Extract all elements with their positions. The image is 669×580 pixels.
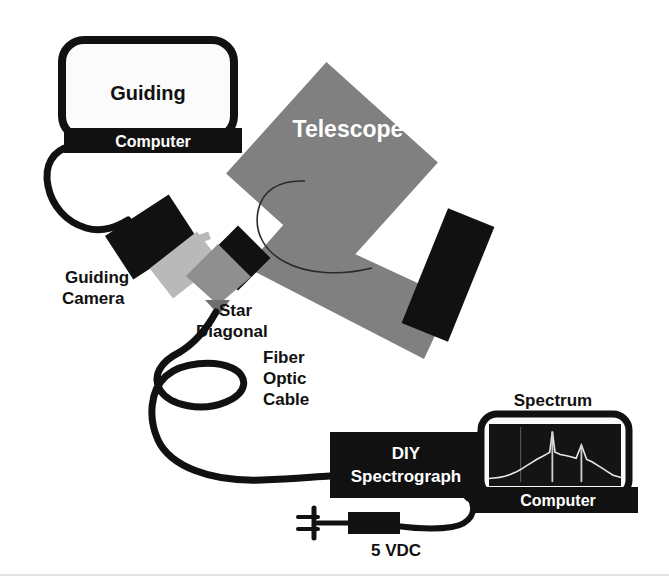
cable-power bbox=[396, 498, 473, 529]
fiber-optic-label-line2: Optic bbox=[263, 369, 306, 388]
guiding-computer[interactable]: Guiding Computer bbox=[62, 40, 242, 153]
spectrograph-label-line1: DIY bbox=[392, 444, 421, 463]
guiding-camera-label-line2: Camera bbox=[62, 289, 125, 308]
power-supply[interactable]: 5 VDC bbox=[298, 508, 421, 560]
guiding-computer-base-label: Computer bbox=[115, 133, 191, 150]
label-fiber-optic-cable: Fiber Optic Cable bbox=[263, 348, 309, 409]
power-brick bbox=[348, 512, 400, 534]
telescope-label: Telescope bbox=[293, 116, 404, 142]
label-telescope: Telescope bbox=[293, 116, 404, 142]
spectrograph[interactable]: DIY Spectrograph bbox=[330, 432, 482, 498]
telescope-body bbox=[226, 62, 438, 274]
setup-diagram: Guiding Computer bbox=[0, 0, 669, 580]
power-supply-label: 5 VDC bbox=[371, 541, 421, 560]
spectrum-computer-base-label: Computer bbox=[520, 492, 596, 509]
star-diagonal-label-line1: Star bbox=[219, 301, 252, 320]
star-diagonal-label-line2: Diagonal bbox=[196, 322, 268, 341]
cable-guiding-computer-to-camera bbox=[47, 146, 128, 230]
spectrum-title-label: Spectrum bbox=[514, 391, 592, 410]
diagram-canvas: Guiding Computer bbox=[0, 0, 669, 580]
spectrograph-label-line2: Spectrograph bbox=[351, 467, 462, 486]
telescope[interactable] bbox=[226, 62, 494, 359]
fiber-optic-label-line3: Cable bbox=[263, 390, 309, 409]
spectrum-computer[interactable]: Spectrum Computer bbox=[474, 391, 638, 513]
spectrum-display bbox=[489, 424, 621, 486]
telescope-end-cap bbox=[402, 208, 495, 342]
spectrograph-body bbox=[330, 432, 482, 498]
fiber-optic-label-line1: Fiber bbox=[263, 348, 305, 367]
guiding-computer-screen-label: Guiding bbox=[110, 82, 186, 104]
label-guiding-camera: Guiding Camera bbox=[62, 268, 129, 308]
guiding-camera-label-line1: Guiding bbox=[65, 268, 129, 287]
